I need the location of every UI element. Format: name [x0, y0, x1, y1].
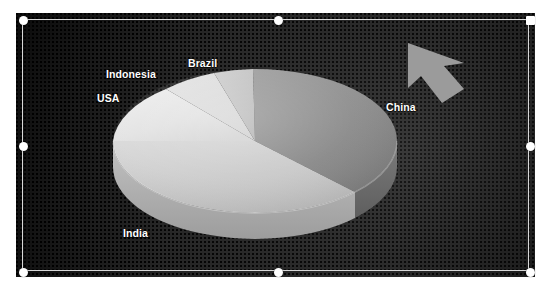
pie-label-usa: USA: [97, 92, 119, 104]
pie-label-brazil: Brazil: [188, 57, 217, 69]
mouse-arrow-cursor[interactable]: [382, 41, 486, 107]
pie-label-india: India: [123, 227, 148, 239]
arrow-pointer-icon: [408, 43, 464, 103]
screenshot-stage: Brazil Indonesia USA China India: [0, 0, 551, 288]
pie-label-indonesia: Indonesia: [106, 68, 156, 80]
